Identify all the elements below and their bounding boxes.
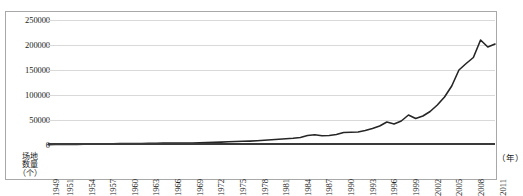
x-tick-label: 1981	[282, 179, 291, 196]
x-tick-label: 1966	[174, 179, 183, 196]
x-tick-label: 2002	[434, 179, 443, 196]
x-tick-label: 1975	[239, 179, 248, 196]
y-tick-label: 50000	[29, 116, 50, 125]
y-tick-label: 250000	[25, 16, 50, 25]
x-tick-label: 1954	[88, 179, 97, 196]
y-tick-label: 200000	[25, 41, 50, 50]
x-axis-tick-labels: 1949195119541957196019631966196919721975…	[48, 148, 495, 182]
x-tick-label: 1963	[152, 179, 161, 196]
y-axis-title-line: （个）	[12, 170, 48, 178]
x-tick-label: 1978	[261, 179, 270, 196]
x-tick-label: 1972	[217, 179, 226, 196]
y-tick-label: 100000	[25, 91, 50, 100]
x-tick-label: 1957	[109, 179, 118, 196]
x-axis-line	[48, 143, 495, 145]
x-tick-label: 2011	[499, 179, 508, 196]
x-tick-label: 1960	[131, 179, 140, 196]
x-axis-unit-label: （年）	[497, 154, 523, 163]
x-tick-label: 1949	[52, 179, 61, 196]
x-tick-label: 1999	[412, 179, 421, 196]
plot-area	[48, 20, 495, 145]
x-tick-label: 2005	[455, 179, 464, 196]
x-tick-label: 1951	[66, 179, 75, 196]
x-tick-label: 2008	[477, 179, 486, 196]
x-tick-label: 1990	[347, 179, 356, 196]
x-tick-label: 1969	[196, 179, 205, 196]
chart-frame: 050000100000150000200000250000 场地数量（个） 1…	[5, 11, 497, 180]
y-tick-label: 150000	[25, 66, 50, 75]
chart-figure: 050000100000150000200000250000 场地数量（个） 1…	[0, 0, 510, 190]
x-tick-label: 1987	[325, 179, 334, 196]
data-series-line	[48, 20, 495, 145]
y-axis-title: 场地数量（个）	[12, 153, 48, 178]
x-tick-label: 1984	[304, 179, 313, 196]
x-tick-label: 1996	[390, 179, 399, 196]
x-tick-label: 1993	[369, 179, 378, 196]
